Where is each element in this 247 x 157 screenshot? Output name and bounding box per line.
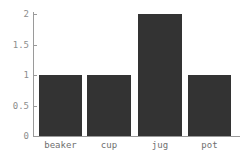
- y-tick-label: 0: [24, 132, 29, 141]
- y-tick-label: 1: [24, 71, 29, 80]
- y-tick-label: 2: [24, 10, 29, 19]
- y-tick-label-wrap: 0: [0, 132, 29, 141]
- y-tick: [33, 136, 37, 137]
- bar-cup: [87, 75, 131, 136]
- y-tick-label: 1.5: [13, 41, 29, 50]
- x-axis-line: [33, 136, 240, 137]
- plot-area: [33, 14, 240, 136]
- bar-beaker: [39, 75, 82, 136]
- x-tick-label-pot: pot: [188, 140, 231, 150]
- y-tick-label: 0.5: [13, 102, 29, 111]
- y-tick-label-wrap: 1: [0, 71, 29, 80]
- y-tick-label-wrap: 1.5: [0, 41, 29, 50]
- y-tick-label-wrap: 2: [0, 10, 29, 19]
- y-tick-label-wrap: 0.5: [0, 102, 29, 111]
- bar-chart: 00.511.52 beakercupjugpot: [0, 0, 247, 157]
- bar-jug: [138, 14, 182, 136]
- bar-pot: [188, 75, 231, 136]
- x-tick-label-beaker: beaker: [39, 140, 82, 150]
- x-tick-label-jug: jug: [138, 140, 182, 150]
- x-tick-label-cup: cup: [87, 140, 131, 150]
